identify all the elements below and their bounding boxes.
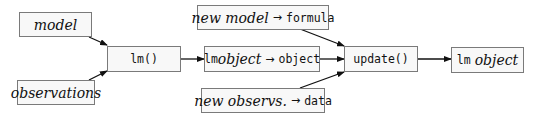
edge-data-to-update [300, 72, 344, 88]
node-new-observs-to-data: new observs. → data [201, 88, 325, 113]
arrow-glyph: → [265, 53, 274, 66]
node-label: lm() [130, 52, 158, 66]
node-new-model-to-formula: new model → formula [197, 5, 329, 30]
arrow-glyph: → [273, 11, 282, 24]
node-model: model [19, 12, 92, 37]
update-workflow-diagram: model observations lm() lm object → obje… [0, 0, 541, 122]
node-mono-prefix: lm [457, 53, 471, 67]
node-italic: new observs. [194, 93, 287, 109]
node-lm-object-to-object: lm object → object [204, 46, 320, 72]
arrow-glyph: → [291, 94, 300, 107]
edge-formula-to-update [300, 29, 344, 46]
edge-model-to-lm [89, 37, 107, 45]
edge-observations-to-lm [89, 71, 107, 80]
node-label: observations [11, 85, 102, 101]
node-italic: new model [192, 10, 269, 26]
node-italic: object [475, 52, 518, 68]
node-lm-call: lm() [107, 46, 181, 72]
node-mono-prefix: lm [204, 52, 218, 66]
node-mono-suffix: object [279, 52, 321, 66]
node-lm-object-result: lm object [451, 47, 524, 73]
node-label: model [34, 17, 77, 33]
node-label: update() [353, 52, 408, 66]
node-mono-suffix: data [304, 94, 332, 108]
node-observations: observations [17, 80, 95, 105]
node-update-call: update() [344, 46, 418, 72]
node-italic: object [218, 51, 261, 67]
node-mono-suffix: formula [286, 11, 334, 25]
